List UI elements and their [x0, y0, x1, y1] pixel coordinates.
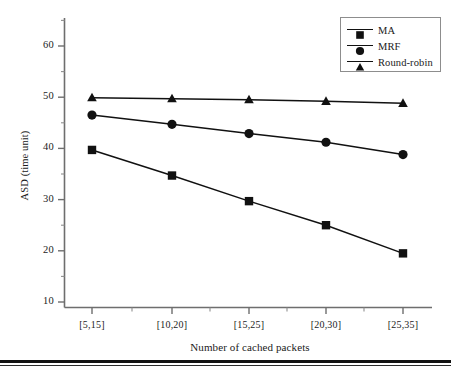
y-tick-label-30: 30	[28, 193, 54, 204]
figure-container: 60 50 40 30 20 10 [5,15] [10,20] [15,25]…	[0, 0, 451, 372]
page-bottom-rule-thin	[0, 365, 451, 366]
data-point	[321, 138, 330, 147]
x-major-ticks	[92, 308, 403, 315]
series-layer	[87, 93, 408, 258]
data-point	[244, 129, 253, 138]
triangle-marker-icon	[347, 55, 373, 69]
x-tick-label-4: [25,35]	[373, 319, 433, 330]
x-axis-label: Number of cached packets	[60, 341, 440, 353]
legend-entry-ma: MA	[341, 22, 440, 38]
x-tick-label-3: [20,30]	[296, 319, 356, 330]
x-tick-label-0: [5,15]	[62, 319, 122, 330]
y-tick-label-20: 20	[28, 244, 54, 255]
legend-label-ma: MA	[378, 25, 395, 36]
legend-label-round-robin: Round-robin	[378, 57, 433, 68]
page-bottom-rule	[0, 360, 451, 363]
data-point	[322, 221, 330, 229]
y-tick-label-40: 40	[28, 141, 54, 152]
legend-entry-round-robin: Round-robin	[341, 54, 440, 70]
legend-label-mrf: MRF	[378, 41, 400, 52]
y-tick-label-10: 10	[28, 295, 54, 306]
data-point	[168, 171, 176, 179]
chart-legend: MA MRF Round-robin	[340, 17, 441, 72]
y-axis-label: ASD (time unit)	[19, 106, 30, 226]
legend-entry-mrf: MRF	[341, 38, 440, 54]
y-tick-label-50: 50	[28, 90, 54, 101]
x-tick-label-1: [10,20]	[142, 319, 202, 330]
data-point	[245, 197, 253, 205]
series-ma	[88, 146, 407, 258]
data-point	[167, 120, 176, 129]
series-round-robin	[87, 93, 408, 107]
data-point	[398, 150, 407, 159]
data-point	[87, 111, 96, 120]
series-mrf	[87, 111, 407, 160]
circle-marker-icon	[347, 39, 373, 53]
y-tick-label-60: 60	[28, 39, 54, 50]
square-marker-icon	[347, 23, 373, 37]
x-tick-label-2: [15,25]	[219, 319, 279, 330]
data-point	[399, 249, 407, 257]
data-point	[88, 146, 96, 154]
